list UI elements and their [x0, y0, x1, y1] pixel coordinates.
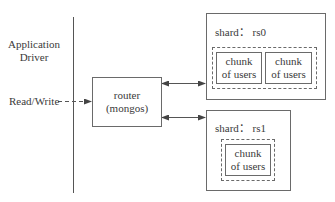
shard-rs0-chunk-1: chunk of users	[216, 52, 262, 84]
read-write-label: Read/Write	[9, 95, 59, 108]
shard-rs1-label: shard： rs1	[215, 122, 266, 135]
application-driver-label: Application Driver	[2, 38, 66, 64]
router-label: router	[114, 89, 140, 102]
chunk-label: chunk	[275, 55, 302, 68]
shard-rs0-label: shard： rs0	[215, 26, 266, 39]
chunk-label: chunk	[226, 55, 253, 68]
shard-rs0-chunk-2: chunk of users	[265, 52, 312, 84]
chunk-label: chunk	[235, 147, 262, 160]
shard-rs1-chunk-1: chunk of users	[225, 144, 271, 176]
chunk-sub-label: of users	[271, 68, 306, 81]
application-label: Application	[2, 38, 66, 51]
driver-label: Driver	[2, 51, 66, 64]
chunk-sub-label: of users	[222, 68, 257, 81]
chunk-sub-label: of users	[231, 160, 266, 173]
router-node: router (mongos)	[92, 77, 162, 127]
mongos-label: (mongos)	[106, 102, 148, 115]
